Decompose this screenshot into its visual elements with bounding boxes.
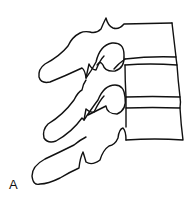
lower-vertebra-upper-facet — [84, 85, 125, 120]
vertebrae-drawing — [0, 0, 196, 211]
panel-label: A — [9, 178, 18, 191]
middle-vertebra-upper-facet — [86, 43, 124, 78]
bottom-vertebra-outline — [32, 108, 126, 184]
middle-vertebra-outline — [44, 65, 127, 142]
bottom-vertebra-body — [126, 108, 183, 140]
middle-disc — [126, 97, 181, 108]
figure-canvas: A — [0, 0, 196, 211]
top-vertebra-body — [125, 23, 176, 59]
middle-vertebra-body — [126, 65, 180, 97]
top-vertebra-outline — [39, 18, 172, 82]
